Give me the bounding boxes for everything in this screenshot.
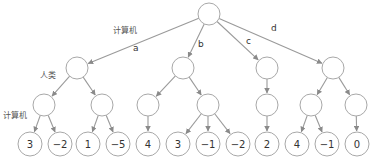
edge-leaf [301,115,307,131]
edge-leaf [48,115,55,132]
level1-node [172,57,194,79]
edge-level2 [156,76,175,96]
level2-node [256,94,278,116]
edge-label-a: a [133,43,139,53]
root-player-label: 计算机 [113,25,137,35]
level2-node [345,94,367,116]
edge-label-b: b [198,39,204,49]
level2-node [197,94,219,116]
game-tree-diagram: 3−21−543−1−224−10 计算机 人类 计算机 a b c d [0,0,376,162]
edge-leaf [186,114,201,134]
level2-node [300,94,322,116]
edge-leaf [315,115,322,132]
edge-leaf [106,115,113,132]
level2-node [91,94,113,116]
edge-leaf [34,115,40,131]
level1-node [66,57,88,79]
leaf-value: 2 [264,139,270,150]
edge-level2 [83,77,95,95]
level2-node [137,94,159,116]
tree-nodes: 3−21−543−1−224−10 [18,3,369,156]
edge-label-d: d [271,23,277,33]
edge-level2 [317,77,327,94]
level1-player-label: 人类 [40,70,56,80]
edge-leaf [92,115,98,131]
level2-player-label: 计算机 [3,110,27,120]
level1-node [256,57,278,79]
leaf-value: −1 [320,139,335,150]
edge-label-c: c [246,36,251,46]
root-node [198,3,220,25]
leaf-value: −1 [201,139,216,150]
leaf-value: 4 [145,139,151,150]
leaf-value: 0 [354,139,360,150]
edge-level2 [339,77,350,94]
leaf-value: −2 [231,139,246,150]
leaf-value: 3 [27,139,33,150]
leaf-value: 1 [85,139,91,150]
edge-c [217,21,258,59]
edge-leaf [215,114,230,134]
leaf-value: −5 [111,139,126,150]
leaf-value: 4 [294,139,300,150]
edge-level2 [189,77,201,95]
leaf-value: 3 [175,139,181,150]
level2-node [33,94,55,116]
leaf-value: −2 [53,139,68,150]
level1-node [322,57,344,79]
